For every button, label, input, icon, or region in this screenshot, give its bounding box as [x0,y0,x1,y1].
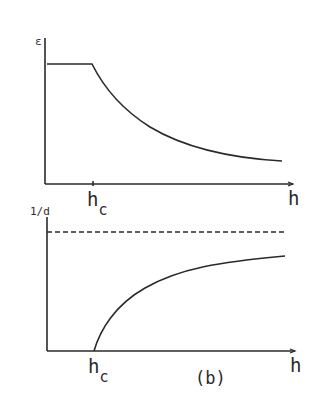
top-hc-sub: c [98,201,107,219]
top-y-axis-label: ε [35,36,42,47]
bottom-plot [47,217,295,353]
top-hc-main: h [87,188,98,210]
bottom-hc-label: hc [88,357,108,376]
bottom-hc-sub: c [99,368,108,386]
top-hc-label: hc [87,190,107,209]
top-x-axis-label: h [288,189,299,208]
bottom-x-axis-label: h [290,356,301,375]
bottom-hc-main: h [88,355,99,377]
epsilon-curve [47,64,282,161]
top-plot [45,38,293,186]
panel-label: (b) [195,370,226,387]
bottom-y-axis-label: 1/d [30,206,50,217]
inverse-d-curve [94,256,285,351]
